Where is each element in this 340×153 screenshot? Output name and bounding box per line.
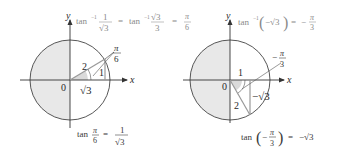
arg-num: π	[93, 126, 98, 135]
result-num: 1	[120, 125, 125, 135]
arg-den: 3	[270, 139, 274, 148]
arg-sign: −	[262, 132, 267, 142]
left-bottom-equation: tan π 6 = 1 √3	[77, 125, 128, 147]
arg-den: 6	[93, 136, 97, 145]
opposite-label: 1	[99, 67, 104, 78]
result-num: π	[185, 12, 190, 21]
x-axis-label: x	[286, 74, 292, 85]
label-leader	[242, 63, 281, 89]
angle-label-den: 3	[280, 60, 284, 69]
right-bottom-equation: tan ( − π 3 ) = −√3	[241, 128, 314, 148]
equals: =	[288, 132, 293, 142]
angle-label-num: π	[280, 49, 285, 58]
angle-label-den: 6	[114, 54, 119, 64]
left-top-equation: tan −1 1 √3 = tan −1 √3 3 = π 6	[76, 12, 191, 33]
tan-fn-2: tan	[129, 16, 140, 26]
tan-fn: tan	[238, 17, 249, 27]
origin-label: 0	[61, 82, 66, 93]
rparen: )	[283, 14, 288, 32]
lparen: (	[256, 129, 261, 147]
inverse-sup: −1	[91, 14, 97, 20]
adjacent-label: 1	[238, 67, 243, 78]
opposite-label: −√3	[252, 90, 270, 102]
result-den: √3	[115, 137, 125, 147]
origin-label: 0	[222, 81, 227, 92]
frac-den: √3	[99, 23, 109, 33]
result-sign: −	[301, 17, 306, 27]
equals: =	[103, 129, 108, 139]
tan-fn: tan	[241, 132, 252, 142]
result-den: 6	[185, 23, 189, 32]
arg-num: π	[270, 128, 275, 137]
right-top-equation: tan −1 ( −√3 ) = − π 3	[238, 13, 316, 32]
angle-label-sign: −	[272, 52, 277, 62]
result: −√3	[299, 132, 314, 142]
result-num: π	[310, 13, 315, 22]
tan-fn: tan	[77, 129, 88, 139]
equals: =	[118, 16, 123, 26]
inverse-tangent-diagram: y x 0 2 1 √3 π 6 tan −1 1 √3 = tan −1 √3…	[0, 0, 340, 153]
equals-2: =	[172, 16, 177, 26]
arg: −√3	[265, 17, 280, 27]
right-panel: y x 0 1 2 −√3 − π 3 tan −1 ( −√3 ) = − π…	[183, 10, 316, 148]
adjacent-label: √3	[80, 84, 92, 96]
hypotenuse-label: 2	[234, 100, 239, 111]
lparen: (	[259, 14, 264, 32]
angle-arc	[88, 69, 91, 80]
frac-den-2: 3	[155, 23, 160, 33]
tan-fn: tan	[76, 16, 87, 26]
angle-wedge	[230, 80, 242, 90]
y-axis-label: y	[65, 10, 71, 21]
left-panel: y x 0 2 1 √3 π 6 tan −1 1 √3 = tan −1 √3…	[20, 10, 191, 147]
equals: =	[291, 17, 296, 27]
frac-num-2: √3	[151, 12, 161, 22]
result-den: 3	[310, 23, 314, 32]
ray-extension	[105, 52, 114, 59]
frac-num: 1	[103, 12, 108, 22]
y-axis-label: y	[225, 10, 231, 21]
hypotenuse-label: 2	[82, 61, 87, 72]
x-axis-label: x	[129, 74, 135, 85]
rparen: )	[278, 129, 283, 147]
inverse-sup-2: −1	[144, 14, 150, 20]
angle-label-num: π	[114, 43, 119, 53]
